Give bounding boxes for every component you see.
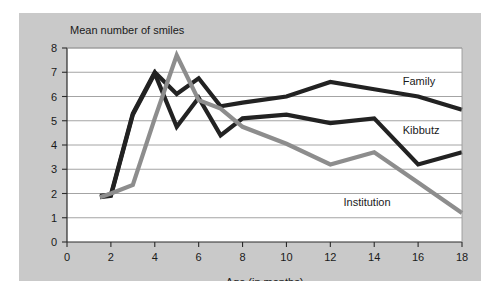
y-axis-title: Mean number of smiles xyxy=(70,24,185,36)
x-tick-label-10: 10 xyxy=(280,251,292,263)
y-tick-label-4: 4 xyxy=(51,139,57,151)
x-tick-label-4: 4 xyxy=(152,251,158,263)
y-tick-label-7: 7 xyxy=(51,66,57,78)
series-label-family: Family xyxy=(403,75,436,87)
y-tick-label-1: 1 xyxy=(51,212,57,224)
x-tick-label-14: 14 xyxy=(368,251,380,263)
y-tick-label-3: 3 xyxy=(51,163,57,175)
y-tick-label-8: 8 xyxy=(51,42,57,54)
y-tick-label-2: 2 xyxy=(51,188,57,200)
x-tick-label-6: 6 xyxy=(196,251,202,263)
x-tick-label-2: 2 xyxy=(108,251,114,263)
series-label-kibbutz: Kibbutz xyxy=(403,124,440,136)
figure-root: 024681012141618012345678 FamilyKibbutzIn… xyxy=(0,0,498,307)
y-tick-label-5: 5 xyxy=(51,115,57,127)
y-tick-label-6: 6 xyxy=(51,91,57,103)
x-tick-label-8: 8 xyxy=(239,251,245,263)
x-tick-label-12: 12 xyxy=(324,251,336,263)
x-tick-label-0: 0 xyxy=(64,251,70,263)
chart-panel: 024681012141618012345678 FamilyKibbutzIn… xyxy=(19,13,481,281)
plot-area-wrapper: 024681012141618012345678 FamilyKibbutzIn… xyxy=(19,13,481,281)
y-tick-label-0: 0 xyxy=(51,236,57,248)
line-chart: 024681012141618012345678 FamilyKibbutzIn… xyxy=(19,13,481,281)
x-tick-label-16: 16 xyxy=(412,251,424,263)
x-tick-label-18: 18 xyxy=(456,251,468,263)
x-axis-title: Age (in months) xyxy=(226,276,304,281)
series-label-institution: Institution xyxy=(344,196,391,208)
